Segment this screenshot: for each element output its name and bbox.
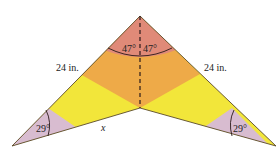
bottom-left-angle-label: 29° — [36, 123, 50, 134]
unknown-side-label: x — [100, 122, 106, 133]
dart-diagram: 47° 47° 24 in. 24 in. 29° 29° x — [0, 0, 280, 156]
bottom-right-angle-label: 29° — [233, 123, 247, 134]
left-side-label: 24 in. — [56, 62, 79, 73]
top-right-angle-label: 47° — [143, 43, 157, 54]
top-left-angle-label: 47° — [122, 43, 136, 54]
right-side-label: 24 in. — [204, 62, 227, 73]
diagram-canvas: 47° 47° 24 in. 24 in. 29° 29° x — [0, 0, 280, 156]
